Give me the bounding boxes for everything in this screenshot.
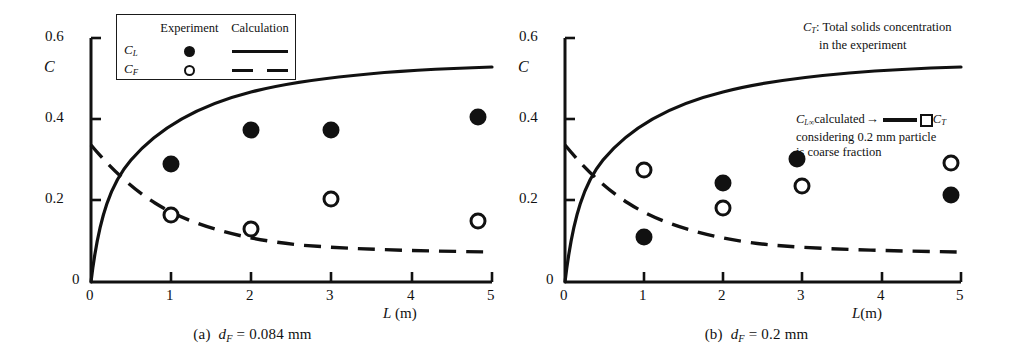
legend-marker-cf-a [154, 60, 225, 79]
x-tick-label-a-0: 0 [86, 287, 94, 304]
y-tick-label-b-0.4: 0.4 [519, 109, 538, 126]
legend-marker-cl-a [154, 41, 225, 60]
data-point-cf-b-1 [637, 163, 651, 177]
legend-corner-a [117, 15, 154, 41]
data-point-cl-a-3 [323, 122, 340, 139]
x-tick-label-b-3: 3 [797, 287, 805, 304]
x-tick-label-a-4: 4 [407, 287, 415, 304]
legend-header-calculation-a: Calculation [225, 15, 295, 41]
cl-calculation-curve-a [91, 67, 492, 282]
y-tick-label-a-0.6: 0.6 [45, 28, 64, 45]
filled-circle-icon [184, 46, 195, 57]
plot-b-svg [504, 0, 1009, 360]
legend-line-cl-a [225, 41, 295, 60]
open-square-icon [920, 114, 933, 127]
x-tick-label-b-0: 0 [560, 287, 568, 304]
legend-row-label-cl-a: CL [117, 41, 154, 60]
legend-row-cf-a: CF [117, 60, 295, 79]
x-tick-label-a-1: 1 [166, 287, 174, 304]
caption-panel-a: (a) dF = 0.084 mm [0, 326, 505, 344]
solid-line-icon [232, 50, 288, 53]
x-tick-label-a-2: 2 [246, 287, 254, 304]
y-axis-label-b: C [518, 58, 529, 76]
panel-a: 0.6 0.4 0.2 0 0 1 2 3 4 5 C L (m) Experi… [0, 0, 505, 360]
y-tick-label-a-0: 0 [72, 271, 80, 288]
caption-panel-b: (b) dF = 0.2 mm [504, 326, 1009, 344]
y-tick-label-a-0.2: 0.2 [45, 190, 64, 207]
x-tick-label-a-5: 5 [487, 287, 495, 304]
data-point-cl-a-2 [243, 122, 260, 139]
x-tick-label-b-4: 4 [877, 287, 885, 304]
legend-header-experiment-a: Experiment [154, 15, 225, 41]
y-tick-label-b-0: 0 [546, 271, 554, 288]
data-point-cl-a-1 [163, 156, 180, 173]
panel-b: 0.6 0.4 0.2 0 0 1 2 3 4 5 C L(m) Experim… [504, 0, 1009, 360]
y-tick-label-b-0.6: 0.6 [519, 28, 538, 45]
x-tick-label-b-5: 5 [956, 287, 964, 304]
data-point-cl-b-2 [715, 175, 732, 192]
x-tick-label-a-3: 3 [326, 287, 334, 304]
data-point-cl-a-5 [470, 109, 487, 126]
data-point-cl-b-5 [943, 187, 960, 204]
dashed-line-icon [232, 69, 288, 72]
legend-panel-a: Experiment Calculation CL CF [116, 14, 296, 80]
annotation-total-solids: CT: Total solids concentration in the ex… [803, 20, 951, 53]
data-point-cf-a-1 [164, 208, 178, 222]
data-point-cf-b-3 [795, 179, 809, 193]
data-point-cf-b-5 [944, 156, 958, 170]
x-axis-label-a: L (m) [383, 305, 417, 322]
data-point-cf-b-2 [716, 201, 730, 215]
data-point-cf-a-2 [244, 222, 258, 236]
cf-calculation-curve-a [91, 145, 492, 252]
y-axis-label-a: C [44, 58, 55, 76]
short-solid-line-icon [883, 118, 917, 122]
cf-calculation-curve-b [565, 145, 961, 252]
data-point-cf-a-5 [471, 214, 485, 228]
annotation-cl-infinity: CL∞calculated→CT considering 0.2 mm part… [796, 111, 946, 160]
data-point-cf-a-3 [324, 192, 338, 206]
y-tick-label-b-0.2: 0.2 [519, 190, 538, 207]
legend-line-cf-a [225, 60, 295, 79]
x-tick-label-b-1: 1 [639, 287, 647, 304]
x-tick-label-b-2: 2 [718, 287, 726, 304]
x-axis-label-b: L(m) [852, 305, 882, 322]
arrow-right-icon: → [865, 111, 880, 126]
legend-row-cl-a: CL [117, 41, 295, 60]
figure-two-panel-concentration-plots: 0.6 0.4 0.2 0 0 1 2 3 4 5 C L (m) Experi… [0, 0, 1009, 360]
y-tick-label-a-0.4: 0.4 [45, 109, 64, 126]
legend-row-label-cf-a: CF [117, 60, 154, 79]
open-circle-icon [184, 65, 195, 76]
data-point-cl-b-1 [636, 229, 653, 246]
